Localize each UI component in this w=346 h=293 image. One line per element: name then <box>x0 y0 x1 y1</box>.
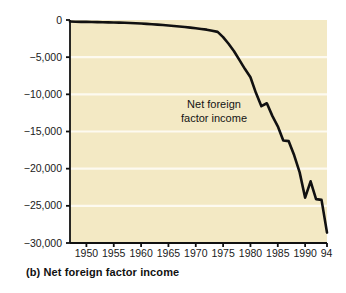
net-foreign-factor-income-chart: 0 −5,000 −10,000 −15,000 −20,000 −25,000… <box>0 0 346 293</box>
x-tick-label-1955: 1955 <box>102 247 126 259</box>
figure-panel: 0 −5,000 −10,000 −15,000 −20,000 −25,000… <box>0 0 346 293</box>
x-tick-label-1965: 1965 <box>157 247 181 259</box>
x-tick-label-1980: 1980 <box>239 247 263 259</box>
x-tick-label-1975: 1975 <box>211 247 235 259</box>
y-tick-label-30000: −30,000 <box>24 237 62 249</box>
x-tick-label-1985: 1985 <box>266 247 290 259</box>
x-tick-label-1990: 1990 <box>294 247 318 259</box>
series-annotation-line1: Net foreign <box>187 98 241 110</box>
y-tick-label-0: 0 <box>56 14 62 26</box>
y-tick-label-5000: −5,000 <box>30 51 63 63</box>
x-tick-label-1950: 1950 <box>75 247 99 259</box>
y-tick-label-15000: −15,000 <box>24 125 62 137</box>
figure-caption: (b) Net foreign factor income <box>26 266 179 278</box>
y-tick-label-20000: −20,000 <box>24 162 62 174</box>
series-annotation-line2: factor income <box>181 112 247 124</box>
x-tick-label-1970: 1970 <box>184 247 208 259</box>
x-tick-label-1960: 1960 <box>129 247 153 259</box>
x-tick-label-1994: 94 <box>321 247 333 259</box>
y-tick-label-10000: −10,000 <box>24 88 62 100</box>
y-tick-label-25000: −25,000 <box>24 199 62 211</box>
